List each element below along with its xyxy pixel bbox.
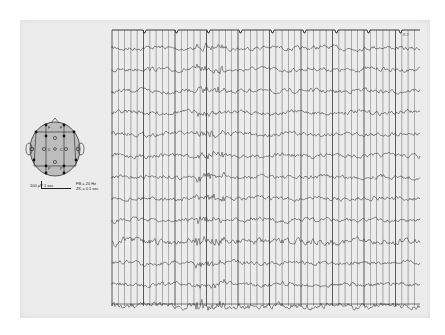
- page-label: 8.2: [403, 32, 409, 37]
- electrode-label: F: [60, 126, 62, 130]
- eeg-channel-trace: [112, 279, 420, 288]
- time-scale: 1 sec: [44, 183, 54, 188]
- eeg-channel-trace: [112, 43, 420, 52]
- eeg-channel-trace: [112, 236, 420, 247]
- eeg-channel-trace: [112, 259, 420, 268]
- electrode-label: F: [48, 126, 50, 130]
- eeg-channel-trace: [112, 131, 420, 138]
- eeg-channel-trace: [112, 299, 420, 310]
- amplitude-scale-bar: [41, 181, 42, 188]
- scale-legend: 100 µV 1 sec FB = 20 Hz ZK = 0.1 sec: [30, 181, 110, 197]
- eeg-channel-trace: [112, 64, 420, 74]
- eeg-channel-trace: [112, 217, 420, 224]
- eeg-channel-trace: [112, 172, 420, 182]
- head-outline: [30, 122, 80, 176]
- timing-marker-line: [112, 30, 420, 33]
- electrode-head-diagram: F F C C P P: [20, 118, 90, 180]
- eeg-channel-trace: [112, 109, 420, 116]
- time-constant-setting: ZK = 0.1 sec: [76, 186, 99, 191]
- eeg-channel-trace: [112, 194, 420, 202]
- eeg-channel-trace: [112, 152, 420, 159]
- time-scale-bar: [41, 188, 71, 189]
- eeg-channel-trace: [112, 87, 420, 95]
